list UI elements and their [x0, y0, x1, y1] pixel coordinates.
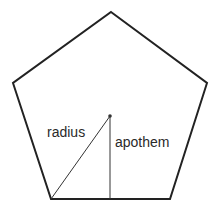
- center-point: [108, 114, 112, 118]
- radius-label: radius: [47, 124, 85, 140]
- pentagon-diagram: radius apothem: [0, 0, 217, 212]
- apothem-label: apothem: [115, 134, 169, 150]
